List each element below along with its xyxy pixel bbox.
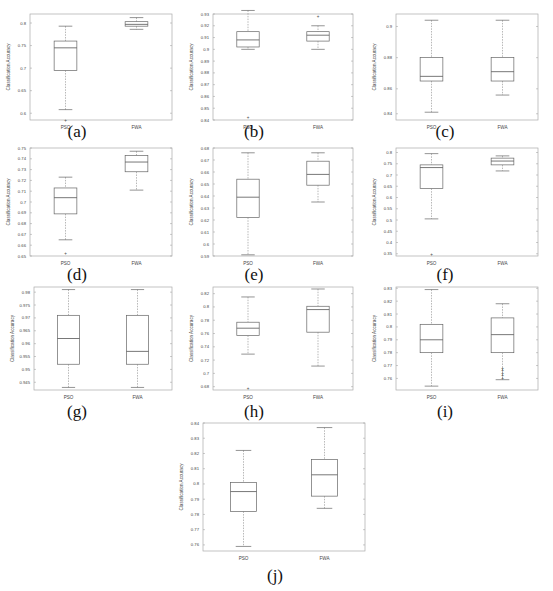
y-tick-label: 0.8	[20, 21, 26, 26]
y-tick-label: 0.78	[191, 512, 200, 517]
y-tick-label: 0.7	[203, 371, 209, 376]
y-tick-label: 0.6	[203, 242, 209, 247]
y-tick-label: 0.66	[201, 170, 210, 175]
plot-frame	[213, 148, 353, 256]
y-tick-label: 0.45	[384, 229, 393, 234]
x-tick-label: FWA	[313, 125, 324, 130]
y-tick-label: 0.8	[386, 324, 392, 329]
y-tick-label: 0.5	[386, 218, 392, 223]
x-tick-label: FWA	[497, 125, 508, 130]
x-tick-label: PSO	[64, 395, 74, 400]
y-tick-label: 0.97	[22, 315, 31, 320]
y-tick-label: 0.65	[201, 182, 210, 187]
y-tick-label: 0.8	[203, 304, 209, 309]
y-tick-label: 0.55	[384, 206, 393, 211]
y-axis-label: Classification Accuracy	[6, 43, 11, 91]
y-tick-label: 0.6	[386, 195, 392, 200]
svg-text:+: +	[501, 366, 504, 371]
y-tick-label: 0.91	[201, 35, 210, 40]
plot-frame	[30, 14, 172, 120]
x-tick-label: FWA	[131, 261, 142, 266]
plot-frame	[203, 423, 365, 551]
plot-frame	[396, 287, 538, 390]
subfigure-caption: (f)	[415, 265, 475, 285]
y-tick-label: 0.81	[384, 312, 393, 317]
y-tick-label: 0.82	[191, 451, 200, 456]
y-tick-label: 0.8	[386, 150, 392, 155]
y-tick-label: 0.4	[386, 240, 392, 245]
box-plot-h: 0.680.70.720.740.760.780.80.82Classifica…	[183, 285, 357, 406]
plot-frame	[30, 148, 172, 256]
plot-frame	[213, 287, 353, 390]
y-tick-label: 0.76	[384, 376, 393, 381]
y-tick-label: 0.82	[384, 299, 393, 304]
box-plot-c: 0.840.860.880.9Classification AccuracyPS…	[366, 12, 542, 136]
x-tick-label: FWA	[313, 395, 324, 400]
y-axis-label: Classification Accuracy	[189, 43, 194, 91]
svg-text:+: +	[317, 14, 320, 19]
x-tick-label: PSO	[243, 395, 253, 400]
y-tick-label: 0.73	[18, 167, 27, 172]
box-plot-f: 0.350.40.450.50.550.60.650.70.750.8Class…	[366, 146, 542, 272]
y-tick-label: 0.77	[384, 363, 393, 368]
box-plot-g: 0.9450.950.9550.960.9650.970.9750.98Clas…	[4, 285, 176, 406]
y-tick-label: 0.65	[18, 88, 27, 93]
y-tick-label: 0.7	[20, 200, 26, 205]
plot-frame	[213, 14, 353, 120]
y-tick-label: 0.35	[384, 251, 393, 256]
y-tick-label: 0.84	[201, 118, 210, 123]
plot-frame	[396, 148, 538, 256]
y-tick-label: 0.78	[384, 350, 393, 355]
y-axis-label: Classification Accuracy	[10, 314, 15, 362]
y-tick-label: 0.7	[386, 173, 392, 178]
y-axis-label: Classification Accuracy	[189, 314, 194, 362]
subfigure-caption: (d)	[47, 265, 107, 285]
y-tick-label: 0.7	[20, 66, 26, 71]
y-tick-label: 0.68	[201, 146, 210, 151]
box-plot-b: 0.840.850.860.870.880.890.90.910.920.93C…	[183, 12, 357, 136]
y-tick-label: 0.86	[201, 94, 210, 99]
x-tick-label: FWA	[132, 395, 143, 400]
y-tick-label: 0.71	[18, 189, 27, 194]
y-tick-label: 0.82	[201, 291, 210, 296]
x-tick-label: FWA	[497, 395, 508, 400]
y-tick-label: 0.9	[203, 47, 209, 52]
y-tick-label: 0.67	[18, 232, 27, 237]
y-tick-label: 0.63	[201, 206, 210, 211]
x-tick-label: FWA	[131, 125, 142, 130]
x-tick-label: PSO	[239, 556, 249, 561]
y-tick-label: 0.72	[201, 358, 210, 363]
y-tick-label: 0.66	[18, 243, 27, 248]
y-tick-label: 0.81	[191, 466, 200, 471]
y-tick-label: 0.77	[191, 527, 200, 532]
svg-text:+: +	[430, 252, 433, 257]
y-tick-label: 0.76	[191, 542, 200, 547]
plot-frame	[34, 287, 172, 390]
y-tick-label: 0.95	[22, 367, 31, 372]
y-tick-label: 0.75	[18, 43, 27, 48]
y-tick-label: 0.975	[20, 303, 31, 308]
x-tick-label: FWA	[313, 261, 324, 266]
y-tick-label: 0.64	[201, 194, 210, 199]
y-tick-label: 0.65	[384, 184, 393, 189]
y-tick-label: 0.96	[22, 341, 31, 346]
y-tick-label: 0.955	[20, 354, 31, 359]
box-plot-d: 0.650.660.670.680.690.70.710.720.730.740…	[0, 146, 176, 272]
y-tick-label: 0.83	[384, 286, 393, 291]
x-tick-label: PSO	[427, 395, 437, 400]
y-tick-label: 0.59	[201, 254, 210, 259]
y-tick-label: 0.61	[201, 230, 210, 235]
subfigure-caption: (c)	[415, 122, 475, 142]
subfigure-caption: (g)	[47, 402, 107, 422]
x-tick-label: FWA	[497, 261, 508, 266]
y-tick-label: 0.74	[201, 344, 210, 349]
plot-frame	[396, 14, 538, 120]
y-tick-label: 0.93	[201, 12, 210, 17]
y-tick-label: 0.6	[20, 111, 26, 116]
subfigure-caption: (i)	[415, 402, 475, 422]
x-tick-label: FWA	[319, 556, 330, 561]
y-axis-label: Classification Accuracy	[179, 463, 184, 511]
y-tick-label: 0.92	[201, 23, 210, 28]
y-tick-label: 0.75	[18, 146, 27, 151]
box-plot-e: 0.590.60.610.620.630.640.650.660.670.68C…	[183, 146, 357, 272]
